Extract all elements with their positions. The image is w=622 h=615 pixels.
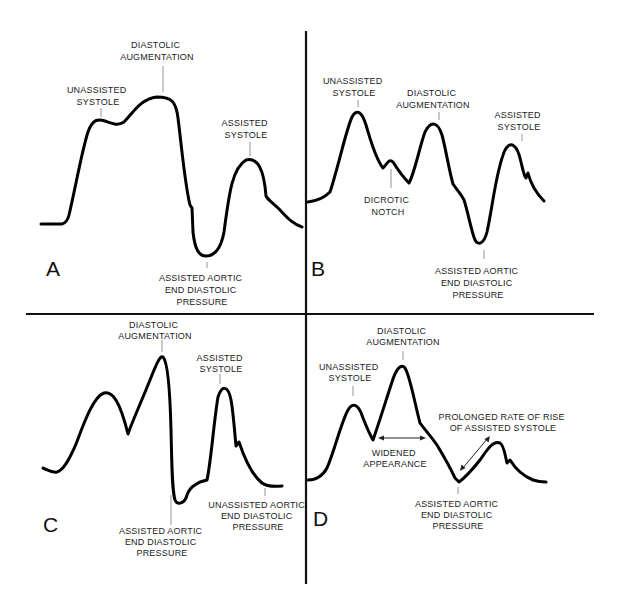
label-a-unassisted-systole: UNASSISTED SYSTOLE (67, 85, 129, 107)
label-b-unassisted-systole: UNASSISTED SYSTOLE (323, 76, 385, 98)
label-a-assisted-systole: ASSISTED SYSTOLE (222, 118, 271, 140)
panel-d: DIASTOLIC AUGMENTATION UNASSISTED SYSTOL… (308, 326, 567, 531)
label-c-diastolic-augmentation: DIASTOLIC AUGMENTATION (118, 320, 192, 341)
panel-letter-c: C (43, 513, 58, 536)
label-d-prolonged-rise: PROLONGED RATE OF RISE OF ASSISTED SYSTO… (439, 412, 568, 433)
label-d-widened: WIDENED APPEARANCE (363, 448, 427, 469)
label-d-unassisted-systole: UNASSISTED SYSTOLE (319, 362, 381, 383)
panel-c-waveform (43, 357, 282, 503)
label-d-diastolic-augmentation: DIASTOLIC AUGMENTATION (366, 326, 440, 347)
panel-a: DIASTOLIC AUGMENTATION UNASSISTED SYSTOL… (41, 40, 302, 307)
panel-c: DIASTOLIC AUGMENTATION ASSISTED SYSTOLE … (43, 320, 308, 558)
label-a-diastolic-augmentation: DIASTOLIC AUGMENTATION (120, 40, 194, 62)
panel-letter-b: B (311, 257, 325, 280)
panel-b: UNASSISTED SYSTOLE DIASTOLIC AUGMENTATIO… (308, 76, 544, 300)
label-c-unassisted-aedp: UNASSISTED AORTIC END DIASTOLIC PRESSURE (208, 500, 307, 532)
widened-arrow (378, 436, 426, 441)
label-c-assisted-aedp: ASSISTED AORTIC END DIASTOLIC PRESSURE (119, 526, 205, 558)
label-b-aedp: ASSISTED AORTIC END DIASTOLIC PRESSURE (435, 266, 521, 300)
label-b-diastolic-augmentation: DIASTOLIC AUGMENTATION (396, 88, 470, 110)
label-c-assisted-systole: ASSISTED SYSTOLE (197, 353, 246, 374)
label-a-aedp: ASSISTED AORTIC END DIASTOLIC PRESSURE (159, 273, 245, 307)
iabp-waveform-diagram: DIASTOLIC AUGMENTATION UNASSISTED SYSTOL… (0, 0, 622, 615)
panel-letter-a: A (46, 257, 60, 280)
label-d-aedp: ASSISTED AORTIC END DIASTOLIC PRESSURE (415, 499, 501, 531)
label-b-assisted-systole: ASSISTED SYSTOLE (495, 110, 544, 132)
label-b-dicrotic-notch: DICROTIC NOTCH (364, 195, 412, 217)
panel-letter-d: D (313, 507, 328, 530)
